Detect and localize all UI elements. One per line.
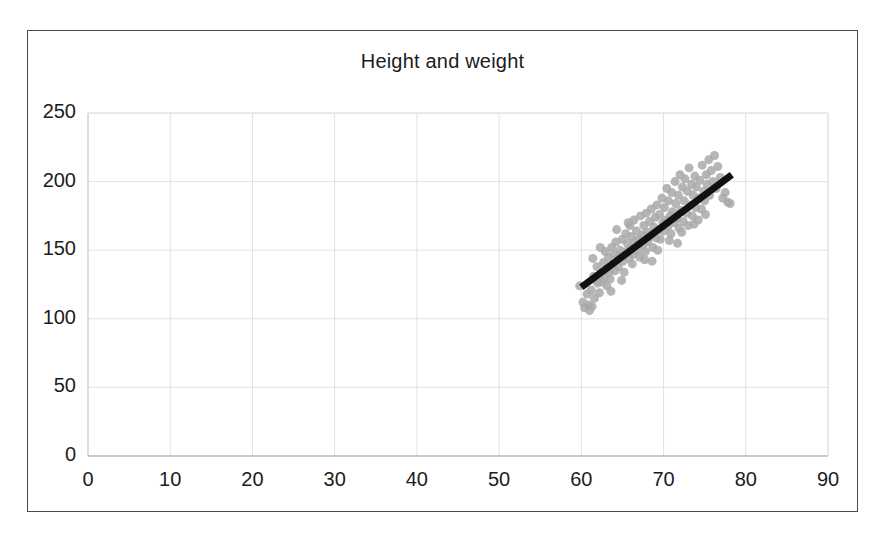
scatter-plot bbox=[0, 0, 885, 535]
y-tick-label: 250 bbox=[14, 100, 76, 123]
y-tick-label: 150 bbox=[14, 237, 76, 260]
x-tick-label: 20 bbox=[222, 468, 282, 491]
x-tick-label: 40 bbox=[387, 468, 447, 491]
x-tick-label: 60 bbox=[551, 468, 611, 491]
x-tick-label: 80 bbox=[716, 468, 776, 491]
x-tick-label: 30 bbox=[305, 468, 365, 491]
x-tick-label: 50 bbox=[469, 468, 529, 491]
x-tick-label: 10 bbox=[140, 468, 200, 491]
x-tick-label: 0 bbox=[58, 468, 118, 491]
y-tick-label: 50 bbox=[14, 374, 76, 397]
chart-figure: Height and weight 050100150200250 010203… bbox=[0, 0, 885, 535]
x-tick-label: 90 bbox=[798, 468, 858, 491]
trendline bbox=[581, 175, 731, 288]
x-tick-label: 70 bbox=[634, 468, 694, 491]
y-tick-label: 200 bbox=[14, 169, 76, 192]
y-tick-label: 100 bbox=[14, 306, 76, 329]
y-tick-label: 0 bbox=[14, 443, 76, 466]
